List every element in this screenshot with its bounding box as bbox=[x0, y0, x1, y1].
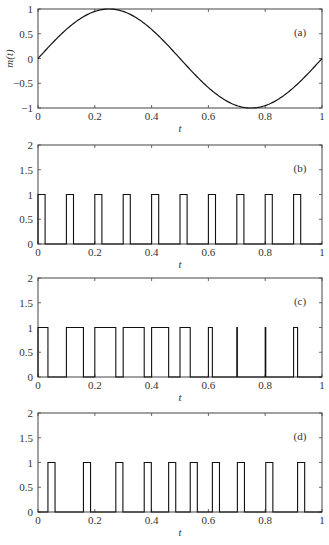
x-tick-label: 1 bbox=[319, 379, 325, 391]
y-tick-label: −0.5 bbox=[13, 77, 33, 89]
x-tick-label: 0.8 bbox=[258, 514, 272, 526]
x-tick-label: 0.8 bbox=[258, 110, 272, 122]
y-tick-label: 1 bbox=[28, 457, 34, 469]
y-tick-label: 1.5 bbox=[19, 297, 33, 309]
x-axis-label: t bbox=[178, 122, 182, 134]
x-axis-label: t bbox=[178, 258, 182, 270]
x-tick-label: 0.6 bbox=[202, 110, 216, 122]
y-tick-label: 1 bbox=[28, 322, 34, 334]
y-tick-label: 0.5 bbox=[19, 213, 33, 225]
x-tick-label: 0.4 bbox=[145, 514, 159, 526]
panel-label: (d) bbox=[294, 430, 307, 443]
x-tick-label: 0.4 bbox=[145, 110, 159, 122]
y-tick-label: 1.5 bbox=[19, 432, 33, 444]
pulse-train-line bbox=[38, 463, 322, 513]
y-tick-label: 0.5 bbox=[19, 346, 33, 358]
x-tick-label: 0 bbox=[35, 110, 41, 122]
x-tick-label: 0.2 bbox=[88, 110, 102, 122]
x-tick-label: 1 bbox=[319, 110, 325, 122]
y-tick-label: 1.5 bbox=[19, 164, 33, 176]
x-tick-label: 0.2 bbox=[88, 379, 102, 391]
y-tick-label: 0 bbox=[28, 506, 34, 518]
y-tick-label: −1 bbox=[21, 102, 33, 114]
x-tick-label: 0.2 bbox=[88, 246, 102, 258]
x-axis-label: t bbox=[178, 391, 182, 403]
x-tick-label: 0.4 bbox=[145, 246, 159, 258]
x-tick-label: 1 bbox=[319, 246, 325, 258]
chart-panel-c: 00.20.40.60.8100.511.52t(c) bbox=[19, 272, 325, 403]
y-tick-label: 0.5 bbox=[19, 481, 33, 493]
y-tick-label: 0 bbox=[28, 238, 34, 250]
chart-panel-b: 00.20.40.60.8100.511.52t(b) bbox=[19, 139, 325, 270]
figure: 00.20.40.60.81−1−0.500.51tm(t)(a)00.20.4… bbox=[0, 0, 329, 545]
y-tick-label: 0 bbox=[28, 371, 34, 383]
x-tick-label: 0 bbox=[35, 379, 41, 391]
y-tick-label: 1 bbox=[28, 3, 34, 15]
y-tick-label: 2 bbox=[28, 139, 34, 151]
x-axis-label: t bbox=[178, 526, 182, 538]
panel-label: (c) bbox=[294, 295, 307, 308]
x-tick-label: 1 bbox=[319, 514, 325, 526]
chart-panel-d: 00.20.40.60.8100.511.52t(d) bbox=[19, 407, 325, 538]
sine-wave-line bbox=[38, 9, 322, 108]
x-tick-label: 0.6 bbox=[202, 246, 216, 258]
panel-label: (a) bbox=[294, 26, 307, 39]
pulse-train-line bbox=[38, 328, 322, 378]
y-tick-label: 0.5 bbox=[19, 28, 33, 40]
chart-panel-a: 00.20.40.60.81−1−0.500.51tm(t)(a) bbox=[3, 3, 325, 134]
y-tick-label: 2 bbox=[28, 407, 34, 419]
plot-frame bbox=[38, 413, 322, 512]
x-tick-label: 0.8 bbox=[258, 379, 272, 391]
panel-label: (b) bbox=[294, 162, 307, 175]
x-tick-label: 0.4 bbox=[145, 379, 159, 391]
pulse-train-line bbox=[38, 195, 322, 245]
y-tick-label: 2 bbox=[28, 272, 34, 284]
x-tick-label: 0 bbox=[35, 246, 41, 258]
x-tick-label: 0.8 bbox=[258, 246, 272, 258]
y-tick-label: 1 bbox=[28, 189, 34, 201]
x-tick-label: 0 bbox=[35, 514, 41, 526]
x-tick-label: 0.6 bbox=[202, 514, 216, 526]
x-tick-label: 0.2 bbox=[88, 514, 102, 526]
x-tick-label: 0.6 bbox=[202, 379, 216, 391]
y-tick-label: 0 bbox=[28, 53, 34, 65]
y-axis-label: m(t) bbox=[3, 49, 16, 68]
